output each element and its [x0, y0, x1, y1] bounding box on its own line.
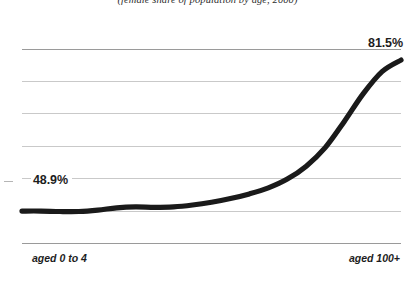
data-label-max: 81.5% — [368, 36, 403, 50]
series-path-female-share — [22, 60, 401, 212]
data-label-min: 48.9% — [31, 173, 72, 187]
gridline — [22, 243, 401, 244]
x-axis-label-left: aged 0 to 4 — [32, 252, 87, 264]
series-line-chart — [22, 30, 401, 243]
plot-area — [22, 30, 401, 243]
x-axis-label-right: aged 100+ — [349, 252, 400, 264]
chart-container: (female share of population by age, 2000… — [0, 0, 415, 293]
chart-subtitle: (female share of population by age, 2000… — [0, 0, 415, 6]
left-axis-tick — [4, 181, 13, 182]
